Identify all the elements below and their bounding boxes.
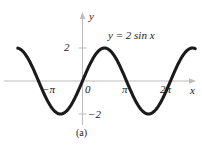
x-tick-label-2pi: 2π: [160, 84, 171, 95]
y-axis-label: y: [89, 11, 94, 22]
equation-annotation: y = 2 sin x: [108, 30, 155, 41]
sine-curve-plot: [0, 0, 202, 149]
figure-caption: (a): [76, 128, 87, 138]
curve-y-equals-2-sin-x: [14, 47, 200, 115]
x-axis-label: x: [190, 85, 195, 96]
y-tick-label-2: 2: [64, 42, 70, 53]
x-tick-label-minus-pi: −π: [42, 84, 55, 95]
x-tick-label-pi: π: [122, 84, 128, 95]
y-axis: [80, 12, 86, 125]
x-tick-label-zero: 0: [85, 84, 91, 95]
figure-container: 2 −2 −π 0 π 2π y x y = 2 sin x (a): [0, 0, 202, 149]
y-tick-label-minus-2: −2: [88, 109, 101, 120]
